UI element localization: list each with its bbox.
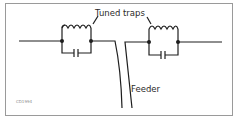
feeder-label: Feeder [131,84,161,94]
junction-dot [89,39,93,43]
tuned-traps-label: Tuned traps [94,8,145,18]
right-trap [149,26,178,59]
junction-dot [176,40,180,44]
junction-dot [147,40,151,44]
junction-dot [60,39,64,43]
feeder-right-conductor [125,42,149,108]
feeder-left-conductor [91,41,122,108]
left-trap [62,25,91,57]
trap-dipole-diagram: Tuned traps Feeder CD1994 [0,0,239,125]
credit-label: CD1994 [16,99,33,104]
left-inductor-icon [62,25,91,28]
right-inductor-icon [149,26,178,29]
label-leader-right [147,17,151,24]
